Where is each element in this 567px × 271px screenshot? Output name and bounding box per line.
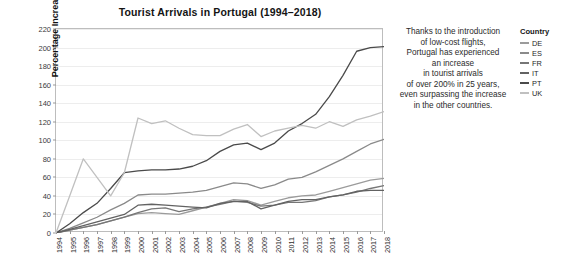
plot-area: Percentage Increase Since 1994 020406080… [55, 28, 383, 232]
x-tick-label: 2004 [191, 237, 200, 253]
legend-item-fr[interactable]: FR [520, 58, 566, 68]
chart-title: Tourist Arrivals in Portugal (1994–2018) [55, 6, 385, 18]
series-line-es [56, 139, 384, 233]
x-tick-label: 1999 [123, 237, 132, 253]
x-tick-label: 2000 [137, 237, 146, 253]
x-tick-label: 2001 [150, 237, 159, 253]
series-line-fr [56, 186, 384, 233]
annotation-line: Portugal has experienced [392, 48, 514, 59]
x-tick-label: 2012 [301, 237, 310, 253]
legend-swatch-icon [520, 52, 529, 54]
legend-swatch-icon [520, 92, 529, 94]
chart-figure: Tourist Arrivals in Portugal (1994–2018)… [0, 0, 567, 271]
plot-canvas: 0204060801001201401601802002201994199519… [56, 29, 382, 231]
legend-item-it[interactable]: IT [520, 68, 566, 78]
x-tick-label: 2014 [328, 237, 337, 253]
y-tick-label: 220 [38, 25, 51, 34]
x-tick-label: 2017 [369, 237, 378, 253]
x-tick-label: 2009 [260, 237, 269, 253]
legend-swatch-icon [520, 72, 529, 74]
legend-item-de[interactable]: DE [520, 38, 566, 48]
series-line-it [56, 190, 384, 233]
legend-swatch-icon [520, 62, 529, 64]
annotation-line: even surpassing the increase [392, 90, 514, 101]
annotation-line: of over 200% in 25 years, [392, 80, 514, 91]
legend-swatch-icon [520, 82, 529, 84]
y-tick-label: 200 [38, 43, 51, 52]
annotation-line: in tourist arrivals [392, 69, 514, 80]
x-tick-label: 1998 [109, 237, 118, 253]
x-tick-label: 1995 [68, 237, 77, 253]
y-tick-label: 60 [43, 173, 51, 182]
x-tick-mark [384, 231, 385, 234]
legend-swatch-icon [520, 42, 529, 44]
y-tick-label: 140 [38, 99, 51, 108]
chart-legend: Country DEESFRITPTUK [520, 27, 566, 98]
x-tick-label: 2018 [383, 237, 392, 253]
legend-label: IT [532, 69, 539, 78]
y-tick-label: 160 [38, 80, 51, 89]
series-line-uk [56, 112, 384, 233]
annotation-line: Thanks to the introduction [392, 27, 514, 38]
x-tick-label: 2015 [342, 237, 351, 253]
chart-annotation: Thanks to the introductionof low-cost fl… [392, 27, 514, 111]
x-tick-label: 1996 [82, 237, 91, 253]
legend-label: PT [532, 79, 541, 88]
x-tick-label: 2005 [205, 237, 214, 253]
x-tick-label: 2002 [164, 237, 173, 253]
x-tick-label: 2006 [219, 237, 228, 253]
x-tick-label: 2007 [232, 237, 241, 253]
legend-item-es[interactable]: ES [520, 48, 566, 58]
x-tick-label: 2010 [273, 237, 282, 253]
legend-title: Country [520, 27, 566, 36]
annotation-line: of low-cost flights, [392, 38, 514, 49]
y-tick-label: 20 [43, 210, 51, 219]
x-tick-label: 2016 [355, 237, 364, 253]
legend-label: ES [532, 49, 542, 58]
y-tick-label: 100 [38, 136, 51, 145]
x-tick-label: 2011 [287, 237, 296, 252]
x-tick-label: 2013 [314, 237, 323, 253]
x-tick-label: 1994 [55, 237, 64, 253]
legend-item-pt[interactable]: PT [520, 78, 566, 88]
series-line-pt [56, 47, 384, 233]
legend-label: FR [532, 59, 542, 68]
legend-item-uk[interactable]: UK [520, 88, 566, 98]
annotation-line: in the other countries. [392, 101, 514, 112]
x-tick-label: 1997 [96, 237, 105, 253]
x-tick-label: 2008 [246, 237, 255, 253]
y-tick-label: 120 [38, 117, 51, 126]
legend-label: DE [532, 39, 542, 48]
y-tick-label: 40 [43, 191, 51, 200]
legend-label: UK [532, 89, 542, 98]
y-tick-label: 0 [47, 229, 51, 238]
annotation-line: an increase [392, 59, 514, 70]
series-lines [56, 29, 384, 233]
y-tick-label: 180 [38, 62, 51, 71]
x-tick-label: 2003 [178, 237, 187, 253]
y-tick-label: 80 [43, 154, 51, 163]
